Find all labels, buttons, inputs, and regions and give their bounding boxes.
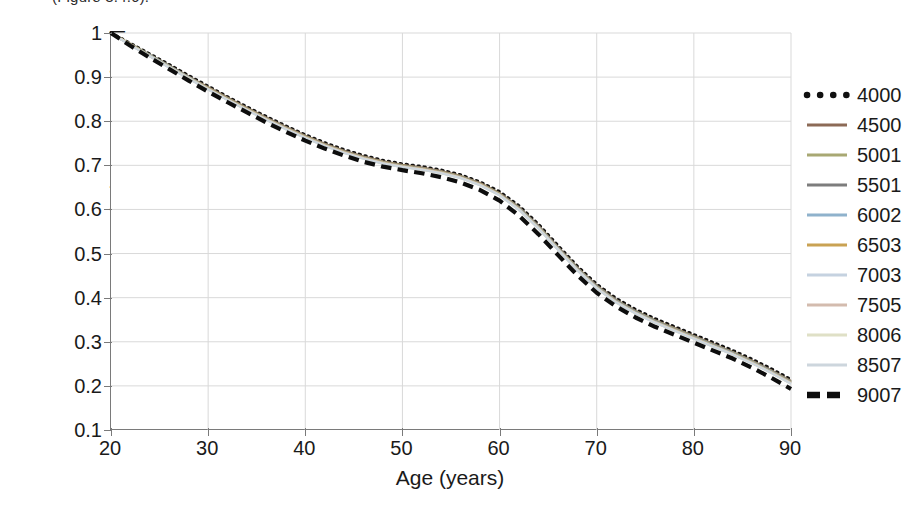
- legend-label: 8507: [857, 355, 902, 375]
- x-tick-mark: [791, 428, 792, 436]
- legend-item-4000[interactable]: 4000: [806, 80, 912, 110]
- y-tick-mark: [104, 386, 112, 387]
- x-tick-mark: [500, 428, 501, 436]
- y-tick-label: 0.7: [48, 155, 102, 175]
- y-tick-mark: [104, 342, 112, 343]
- y-tick-mark: [104, 121, 112, 122]
- legend-label: 9007: [857, 385, 902, 405]
- legend-item-6002[interactable]: 6002: [806, 200, 912, 230]
- legend-item-5501[interactable]: 5501: [806, 170, 912, 200]
- x-axis-tick-labels: 2030405060708090: [110, 437, 790, 463]
- legend-item-7505[interactable]: 7505: [806, 290, 912, 320]
- legend-label: 8006: [857, 325, 902, 345]
- x-tick-label: 30: [177, 437, 237, 459]
- legend-label: 5001: [857, 145, 902, 165]
- y-tick-mark: [104, 33, 112, 34]
- y-tick-label: 0.3: [48, 332, 102, 352]
- y-tick-mark: [104, 77, 112, 78]
- x-tick-mark: [694, 428, 695, 436]
- legend-item-8507[interactable]: 8507: [806, 350, 912, 380]
- legend-swatch-solid-icon: [806, 358, 848, 372]
- scone-signal-chart: Relative S-cone signal 10.90.80.70.60.50…: [0, 0, 915, 514]
- x-tick-mark: [305, 428, 306, 436]
- y-tick-mark: [104, 298, 112, 299]
- legend-swatch-solid-icon: [806, 148, 848, 162]
- y-tick-label: 0.4: [48, 288, 102, 308]
- y-tick-label: 0.8: [48, 111, 102, 131]
- x-tick-mark: [597, 428, 598, 436]
- legend-label: 6002: [857, 205, 902, 225]
- plot-area: [110, 33, 790, 430]
- legend-swatch-solid-icon: [806, 118, 848, 132]
- legend-label: 7505: [857, 295, 902, 315]
- legend-swatch-solid-icon: [806, 208, 848, 222]
- x-tick-label: 20: [80, 437, 140, 459]
- y-tick-label: 0.5: [48, 244, 102, 264]
- legend-item-9007[interactable]: 9007: [806, 380, 912, 410]
- series-line-5001: [111, 33, 791, 381]
- series-line-4000: [111, 33, 791, 380]
- x-tick-label: 90: [760, 437, 820, 459]
- legend-item-5001[interactable]: 5001: [806, 140, 912, 170]
- y-axis-tick-labels: 10.90.80.70.60.50.40.30.20.1: [34, 33, 102, 430]
- y-tick-mark: [104, 254, 112, 255]
- x-tick-mark: [111, 428, 112, 436]
- chart-legend: 4000450050015501600265037003750580068507…: [806, 80, 912, 410]
- series-line-6503: [111, 33, 791, 383]
- x-tick-label: 80: [663, 437, 723, 459]
- y-tick-label: 1: [48, 23, 102, 43]
- y-tick-label: 0.9: [48, 67, 102, 87]
- legend-item-8006[interactable]: 8006: [806, 320, 912, 350]
- legend-item-7003[interactable]: 7003: [806, 260, 912, 290]
- legend-swatch-dashed-icon: [806, 388, 848, 402]
- y-tick-mark: [104, 165, 112, 166]
- series-line-4500: [111, 33, 791, 381]
- legend-swatch-solid-icon: [806, 238, 848, 252]
- x-tick-mark: [208, 428, 209, 436]
- series-line-6002: [111, 33, 791, 382]
- legend-label: 4000: [857, 85, 902, 105]
- legend-label: 4500: [857, 115, 902, 135]
- legend-label: 6503: [857, 235, 902, 255]
- series-line-5501: [111, 33, 791, 382]
- x-tick-label: 60: [469, 437, 529, 459]
- x-axis-title: Age (years): [110, 466, 790, 490]
- legend-swatch-solid-icon: [806, 328, 848, 342]
- legend-label: 5501: [857, 175, 902, 195]
- legend-label: 7003: [857, 265, 902, 285]
- y-tick-label: 0.2: [48, 376, 102, 396]
- legend-swatch-dotted-icon: [806, 88, 848, 102]
- plot-canvas: [111, 33, 791, 430]
- legend-swatch-solid-icon: [806, 268, 848, 282]
- x-tick-mark: [402, 428, 403, 436]
- series-line-7003: [111, 33, 791, 383]
- x-tick-label: 40: [274, 437, 334, 459]
- legend-swatch-solid-icon: [806, 178, 848, 192]
- series-line-7505: [111, 33, 791, 383]
- y-tick-label: 0.6: [48, 199, 102, 219]
- legend-swatch-solid-icon: [806, 298, 848, 312]
- y-tick-mark: [104, 209, 112, 210]
- legend-item-4500[interactable]: 4500: [806, 110, 912, 140]
- x-tick-label: 70: [566, 437, 626, 459]
- x-tick-label: 50: [371, 437, 431, 459]
- legend-item-6503[interactable]: 6503: [806, 230, 912, 260]
